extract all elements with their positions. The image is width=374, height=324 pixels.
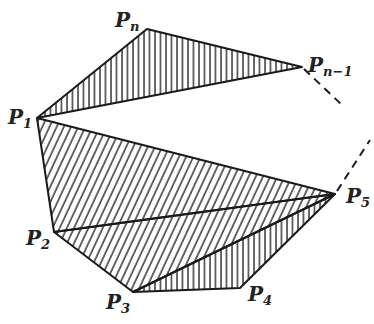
polygon-triangulation-diagram: Pn Pn−1 P1 P5 P2 P3 P4 (0, 0, 374, 324)
label-p1: P1 (7, 105, 32, 131)
label-pn-1: Pn−1 (307, 53, 352, 79)
triangle-p1-pn-pn1 (37, 29, 302, 118)
label-p5: P5 (345, 184, 370, 210)
label-p2: P2 (25, 226, 50, 252)
label-p3: P3 (105, 290, 130, 316)
label-p4: P4 (247, 282, 272, 308)
label-pn: Pn (114, 8, 140, 34)
